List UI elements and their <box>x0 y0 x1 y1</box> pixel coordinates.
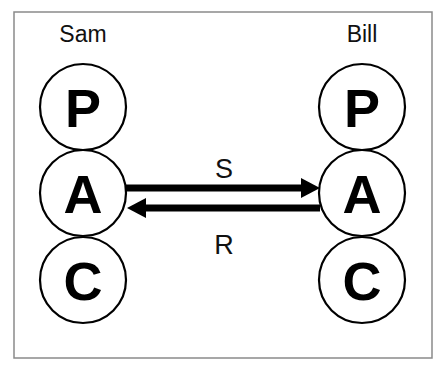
response-arrowhead-icon <box>127 198 146 218</box>
left-adult-letter: A <box>64 164 103 224</box>
right-party-name: Bill <box>347 21 378 47</box>
right-state-child: C <box>319 237 405 323</box>
right-ego-states: P A C <box>319 64 405 323</box>
right-adult-letter: A <box>343 164 382 224</box>
right-parent-letter: P <box>344 78 380 138</box>
right-state-adult: A <box>319 150 405 236</box>
right-child-letter: C <box>343 251 382 311</box>
left-party-name: Sam <box>59 21 106 47</box>
response-arrow <box>127 198 320 218</box>
stimulus-arrowhead-icon <box>301 178 320 198</box>
left-state-adult: A <box>40 150 126 236</box>
left-state-child: C <box>40 237 126 323</box>
transactional-analysis-diagram: Sam P A C Bill P A C S <box>0 0 446 371</box>
left-parent-letter: P <box>65 78 101 138</box>
left-state-parent: P <box>40 64 126 150</box>
stimulus-label: S <box>215 154 233 184</box>
left-ego-states: P A C <box>40 64 126 323</box>
response-label: R <box>214 230 234 260</box>
left-child-letter: C <box>64 251 103 311</box>
right-state-parent: P <box>319 64 405 150</box>
